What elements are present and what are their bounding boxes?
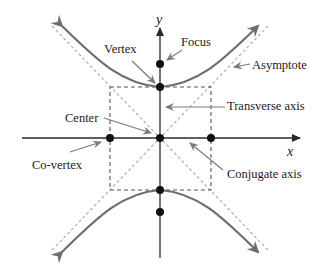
focus-top-point [156, 60, 164, 68]
center-label: Center [65, 111, 99, 125]
conjugate-axis-pointer [190, 143, 223, 170]
vertex-top-point [156, 83, 164, 91]
hyperbola-diagram: y x Vertex Focus Asymptote Center Transv… [0, 0, 328, 272]
co-vertex-pointer [70, 142, 101, 152]
asymptote-label: Asymptote [252, 58, 307, 72]
focus-bottom-point [156, 208, 164, 216]
transverse-axis-label: Transverse axis [227, 99, 305, 113]
vertex-label: Vertex [104, 42, 137, 56]
center-pointer [104, 118, 151, 133]
vertex-bottom-point [156, 186, 164, 194]
y-axis-label: y [154, 12, 163, 27]
center-point [156, 134, 164, 142]
co-vertex-left-point [106, 134, 114, 142]
co-vertex-right-point [207, 134, 215, 142]
x-axis-label: x [286, 144, 294, 159]
co-vertex-label: Co-vertex [32, 158, 83, 172]
asymptote-pointer [234, 64, 250, 67]
focus-pointer [167, 50, 182, 60]
focus-label: Focus [181, 35, 211, 49]
conjugate-axis-label: Conjugate axis [227, 167, 302, 181]
vertex-pointer [132, 61, 155, 83]
